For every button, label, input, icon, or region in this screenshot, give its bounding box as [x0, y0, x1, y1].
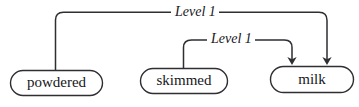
- node-label-powdered: powdered: [10, 75, 103, 90]
- edge-skimmed-milk-left-segment: [184, 40, 208, 68]
- edge-powdered-milk-left-segment: [56, 12, 172, 70]
- edge-skimmed-milk-right-segment: [254, 40, 292, 61]
- node-label-milk: milk: [270, 72, 354, 87]
- node-label-skimmed: skimmed: [140, 73, 228, 88]
- edge-label-powdered-milk: Level 1: [172, 5, 219, 19]
- edge-label-skimmed-milk: Level 1: [208, 32, 255, 46]
- dependency-diagram: powdered skimmed milk Level 1 Level 1: [0, 0, 359, 107]
